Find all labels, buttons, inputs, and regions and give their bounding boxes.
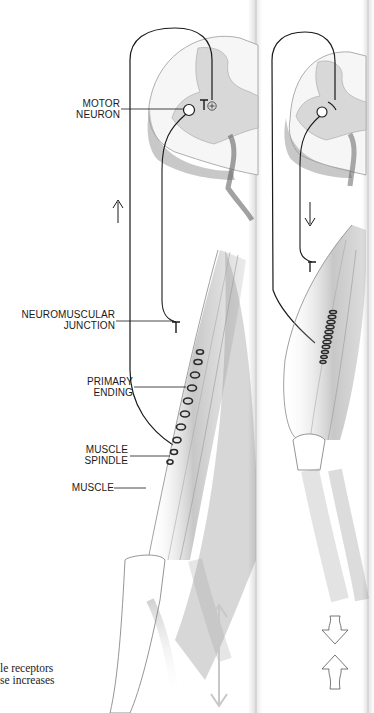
arrow-up-icon <box>113 200 123 223</box>
muscle-left <box>110 250 256 713</box>
figure-caption: le receptors se increases <box>0 662 55 686</box>
motor-neuron-cell-right <box>317 107 327 117</box>
label-neuromuscular-junction: NEUROMUSCULAR JUNCTION <box>8 310 115 331</box>
label-muscle-spindle: MUSCLE SPINDLE <box>72 445 128 466</box>
muscle-right <box>284 225 366 600</box>
motor-neuron-cell-left <box>184 105 195 116</box>
stretch-reflex-figure: MOTOR NEURON ⊕ NEUROMUSCULAR JUNCTION PR… <box>0 0 374 713</box>
contraction-arrows-icon <box>322 616 348 689</box>
right-panel <box>272 32 366 689</box>
spinal-cord-right <box>284 52 366 186</box>
left-panel <box>110 28 258 713</box>
label-primary-ending: PRIMARY ENDING <box>72 377 133 398</box>
spinal-cord-left <box>148 36 258 220</box>
arrow-down-icon <box>305 202 315 226</box>
illustration <box>0 0 374 713</box>
label-motor-neuron: MOTOR NEURON <box>68 99 120 120</box>
label-muscle: MUSCLE <box>60 483 114 494</box>
